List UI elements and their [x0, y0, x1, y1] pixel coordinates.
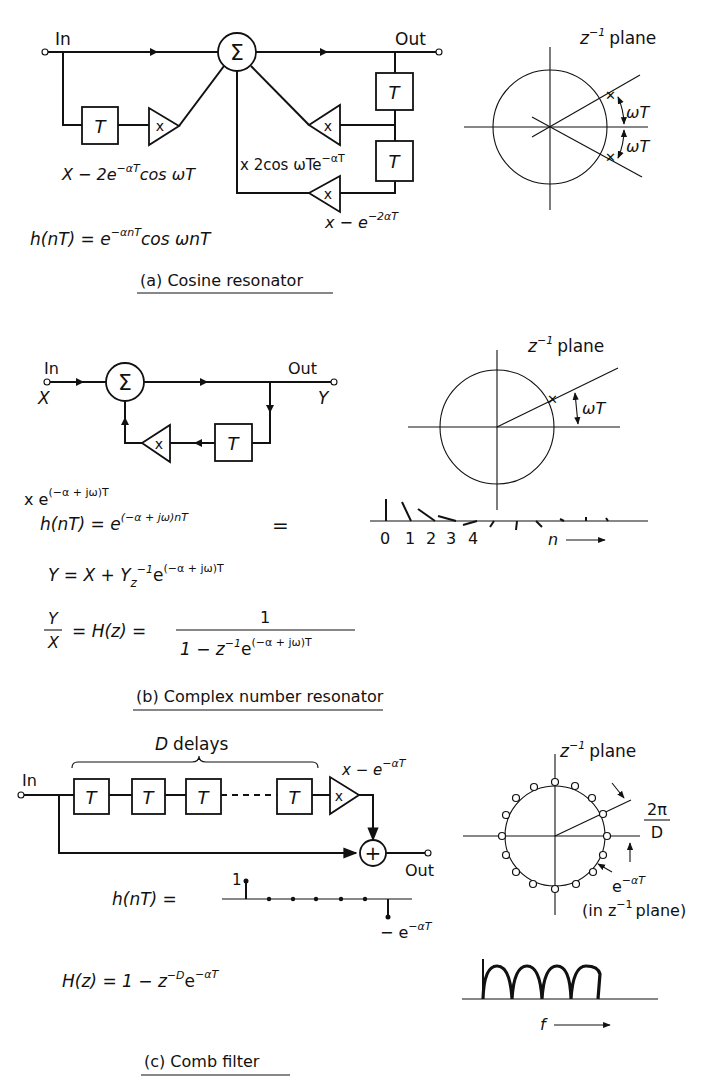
svg-text:3: 3 [446, 529, 456, 548]
svg-text:+: + [365, 841, 382, 865]
svg-text:1: 1 [260, 608, 270, 627]
svg-text:z−1plane: z−1plane [559, 739, 636, 761]
svg-text:n: n [548, 530, 558, 549]
input-terminal [42, 49, 48, 55]
svg-text:x: x [324, 186, 332, 202]
svg-text:Y: Y [48, 609, 59, 628]
svg-text:e−αT: e−αT [612, 874, 646, 896]
impulse-response-a: h(nT) = e−αnTcos ωnT [30, 226, 212, 249]
svg-text:ωT: ωT [582, 399, 606, 418]
svg-text:✕: ✕ [605, 150, 616, 165]
in-label: In [55, 29, 71, 49]
svg-text:ωT: ωT [626, 103, 650, 122]
impulse-response-b: h(nT) = e(−α + jω)nT [40, 511, 189, 534]
svg-text:x: x [324, 118, 332, 134]
svg-text:1: 1 [405, 529, 415, 548]
sum-symbol: Σ [230, 40, 244, 65]
svg-text:(in z−1plane): (in z−1plane) [582, 898, 686, 920]
svg-text:0: 0 [380, 529, 390, 548]
coef-mid: x 2cos ωTe−αT [240, 152, 345, 174]
svg-text:✕: ✕ [547, 392, 558, 407]
panel-c-comb-filter: Ddelays In T T T T x x − e−αT + Out h(nT… [18, 734, 686, 1075]
svg-text:In: In [22, 771, 37, 790]
svg-text:h(nT) =: h(nT) = [112, 889, 177, 909]
svg-text:z−1plane: z−1plane [579, 26, 656, 48]
transfer-function-c: H(z) = 1 − z−De−αT [62, 968, 219, 991]
svg-text:Σ: Σ [118, 370, 132, 395]
panel-a-cosine-resonator: Σ In Out T x X − 2e−αTcos ωT T T x x x 2… [30, 26, 656, 293]
svg-text:x: x [156, 118, 164, 134]
coef-bottom: x − e−2αT [324, 210, 399, 232]
svg-text:x: x [335, 788, 343, 804]
rotating-phasor-sequence: 0 1 2 3 4 n [370, 499, 648, 549]
transfer-function-b: Y X = H(z) = 1 1 − z−1e(−α + jω)T [44, 608, 355, 659]
svg-text:4: 4 [468, 529, 478, 548]
coef-b: x e(−α + jω)T [24, 486, 109, 509]
svg-text:2π: 2π [647, 800, 667, 819]
impulse-response-c: h(nT) = 1 − e−αT [112, 871, 433, 942]
svg-text:1 − z−1e(−α + jω)T: 1 − z−1e(−α + jω)T [180, 636, 312, 659]
svg-text:f: f [540, 1015, 548, 1034]
svg-text:✕: ✕ [605, 88, 616, 103]
svg-text:X: X [37, 388, 50, 408]
svg-text:2: 2 [426, 529, 436, 548]
caption-a: (a) Cosine resonator [140, 271, 303, 290]
z-plane-a: z−1plane ✕ ✕ ωT ωT [464, 26, 656, 210]
svg-text:= H(z) =: = H(z) = [72, 621, 146, 641]
out-label: Out [395, 29, 426, 49]
coef-c: x − e−αT [341, 757, 407, 779]
delays-label: Ddelays [155, 734, 229, 754]
svg-text:Out: Out [405, 861, 434, 880]
svg-text:X: X [47, 633, 60, 652]
coef-left: X − 2e−αTcos ωT [61, 162, 196, 184]
svg-text:In: In [44, 359, 59, 378]
z-plane-c: z−1plane 2π D e−αT (in z−1plane) [463, 739, 686, 920]
svg-text:z−1plane: z−1plane [527, 334, 604, 356]
panel-b-complex-resonator: In X Σ Out Y T x x e(−α + jω)T h(nT) = e… [24, 334, 648, 710]
svg-text:1: 1 [232, 871, 242, 889]
svg-text:Out: Out [288, 359, 317, 378]
comb-frequency-response: f [462, 959, 658, 1034]
svg-text:Y: Y [318, 388, 330, 408]
output-terminal [436, 49, 442, 55]
svg-text:ωT: ωT [626, 137, 650, 156]
difference-equation: Y = X + Yz−1e(−α + jω)T [48, 562, 224, 590]
svg-text:− e−αT: − e−αT [380, 920, 433, 942]
figure-canvas: Σ In Out T x X − 2e−αTcos ωT T T x x x 2… [0, 0, 728, 1089]
svg-text:D: D [651, 823, 663, 842]
svg-text:x: x [155, 436, 163, 452]
z-plane-b: z−1plane ✕ ωT [408, 334, 620, 510]
caption-b: (b) Complex number resonator [136, 687, 384, 706]
caption-c: (c) Comb filter [144, 1052, 260, 1071]
svg-text:=: = [272, 513, 289, 537]
